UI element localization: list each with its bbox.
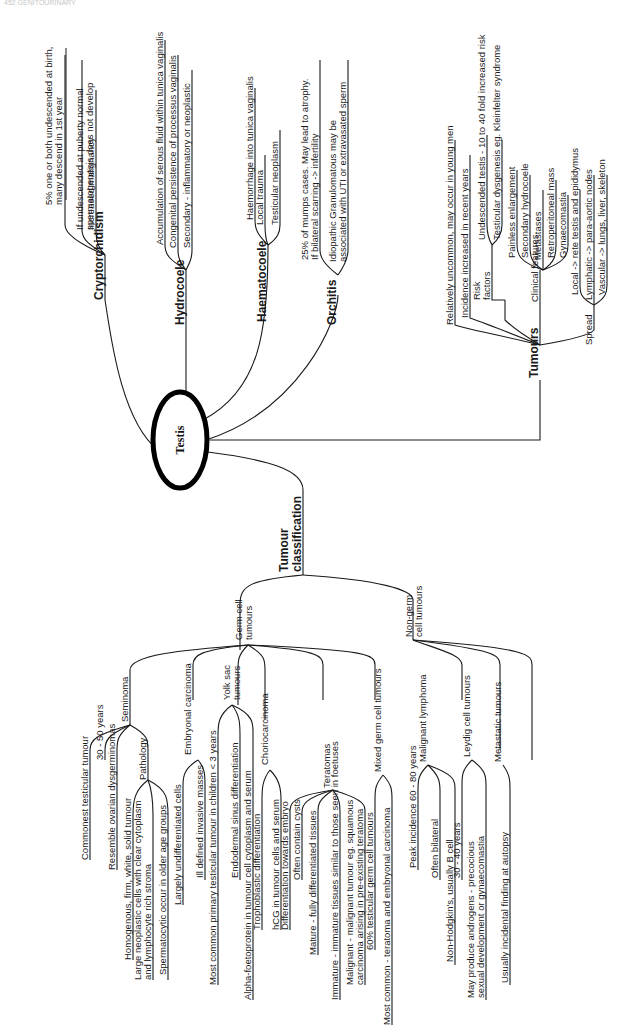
branch-orchitis: Orchitis — [325, 279, 339, 325]
risk-factor-item: Undescended testis - 10 to 40 fold incre… — [476, 34, 487, 240]
seminoma-label: Seminoma — [119, 676, 130, 722]
orchitis-item: Idiopathic Granulomatous may beassociate… — [327, 82, 349, 262]
clinical-feature-item: Painless enlargement — [506, 166, 517, 258]
teratoma-item: Mature - fully differentiated tissues — [307, 810, 318, 955]
branch-tumour-classification: Tumourclassification — [277, 496, 304, 572]
edge-tumours — [210, 380, 540, 440]
clinical-feature-item: Gynaecomastia — [557, 191, 568, 258]
mixed-germ-cell-label: Mixed germ cell tumours — [372, 668, 383, 772]
pathology-item: Spermatocytic occur in older age groups — [157, 805, 168, 975]
teratoma-item: Often contain cysts — [291, 799, 302, 880]
spread-item: Local -> rete testis and epididymus — [569, 148, 580, 295]
germ-cell-tumours-label: Germ celltumours — [233, 599, 255, 640]
testis-mind-map: 452 GENITOURINARY — [0, 0, 628, 1030]
embryonal-item: Largely undifferentiated cells — [172, 784, 183, 905]
seminoma-item: Resemble ovarian dysgerminomas — [106, 723, 117, 870]
leydig-cell-tumours-label: Leydig cell tumours — [461, 675, 472, 757]
spread-item: Lymphatic -> para-aortic nodes — [583, 169, 594, 300]
edge-orchitis — [206, 295, 338, 440]
pathology-item: Large neoplastic cells with clear cytopl… — [132, 800, 154, 980]
haematocoele-item: Local trauma — [254, 169, 265, 225]
risk-factors-label: Riskfactors — [471, 271, 493, 300]
malignant-lymphoma-label: Malignant lymphoma — [417, 674, 428, 762]
clinical-feature-item: Secondary hydrocoele — [519, 163, 530, 258]
yolk-sac-item: Endodermal sinus differentiation — [229, 742, 240, 878]
choriocarcinoma-label: Choriocarcinoma — [259, 692, 270, 765]
center-node: Testis — [153, 392, 207, 488]
choriocarcinoma-item: Trophoblastic differentiation — [251, 814, 262, 930]
non-germ-cell-tumours-label: Non-germcell tumours — [403, 586, 425, 637]
tumours-general-item: Relatively uncommon, may occur in young … — [444, 125, 455, 325]
seminoma-item: 30 - 50 years — [94, 704, 105, 760]
center-label: Testis — [173, 425, 187, 454]
teratoma-item: Immature - immature tissues similar to t… — [329, 741, 340, 1000]
metastatic-tumours-label: Metastatic tumours — [492, 682, 503, 762]
seminoma-item: Commonest testicular tumour — [79, 736, 90, 860]
lymphoma-item: Peak incidence 60 - 80 years — [407, 745, 418, 868]
yolk-sac-tumours-label: Yolk sactumours — [221, 665, 243, 700]
embryonal-carcinoma-label: Embryonal carcinoma — [182, 662, 193, 755]
mixed-item: Most common - teratoma and embryonal car… — [381, 807, 392, 1025]
branch-hydrocoele: Hydrocoele — [173, 259, 187, 325]
edge-cryptorchidism — [105, 255, 158, 450]
leydig-item: 30 - 40 years — [451, 822, 462, 878]
page-header: 452 GENITOURINARY — [4, 0, 76, 6]
hydrocoele-item: Congenital persistence of processus vagi… — [167, 55, 178, 248]
cryptorchidism-item: 5% one or both undescended at birth,many… — [43, 47, 65, 205]
lymphoma-item: Often bilateral — [429, 819, 440, 878]
orchitis-item: 25% of mumps cases. May lead to atrophy.… — [299, 79, 321, 260]
clinical-feature-item: Metastases — [532, 211, 543, 260]
clinical-feature-item: Retroperitoneal mass — [545, 167, 556, 258]
embryonal-item: Ill defined invasive masses — [194, 765, 205, 878]
teratoma-item: Malignant - malignant tumour eg. squamou… — [344, 799, 366, 985]
spread-item: Vascular -> lungs, liver, skeleton — [596, 159, 607, 295]
leydig-item: May produce androgens - precocioussexual… — [465, 835, 487, 998]
metastatic-item: Usually incidental finding at autopsy — [499, 832, 510, 983]
haematocoele-item: Testicular neoplasm — [269, 141, 280, 225]
risk-factor-item: Testicular dysgenesis eg. Kleinfelter sy… — [491, 45, 502, 240]
yolk-sac-item: Most common primary testicular tumour in… — [207, 730, 218, 985]
mixed-item: 60% testicular germ cell tumours — [364, 812, 375, 950]
branch-haematocoele: Haematocoele — [255, 240, 269, 322]
cryptorchidism-item: Increased malignancy — [85, 137, 96, 230]
hydrocoele-item: Secondary - inflammatory or neoplastic — [181, 83, 192, 248]
spread-label: Spread — [583, 314, 594, 345]
branch-tumours: Tumours — [527, 327, 541, 378]
teratoma-item: Differentiation towards embryo — [279, 801, 290, 930]
hydrocoele-item: Accumulation of serous fluid within tuni… — [154, 31, 165, 245]
pathology-label: Pathology — [137, 737, 148, 780]
tumours-general-item: Incidence increased in recent years — [459, 168, 470, 318]
